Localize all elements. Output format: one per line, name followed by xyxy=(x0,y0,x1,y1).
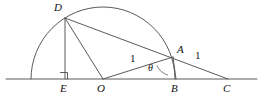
label-length-ac: 1 xyxy=(195,50,201,61)
label-point-o: O xyxy=(97,83,105,94)
segment-dc xyxy=(65,18,228,79)
right-angle-marker-at-e xyxy=(61,73,68,80)
label-point-d: D xyxy=(54,2,62,13)
label-angle-theta: θ xyxy=(148,63,153,73)
angle-arc-theta xyxy=(157,66,168,75)
label-point-e: E xyxy=(60,83,67,94)
segment-do xyxy=(65,18,103,79)
label-point-a: A xyxy=(177,44,184,55)
geometry-figure: D A E O B C 1 1 θ xyxy=(0,0,263,101)
label-point-c: C xyxy=(223,83,230,94)
semicircle-arc xyxy=(31,7,175,79)
segment-oa xyxy=(103,57,173,79)
label-point-b: B xyxy=(171,83,178,94)
label-length-oa: 1 xyxy=(130,53,136,64)
